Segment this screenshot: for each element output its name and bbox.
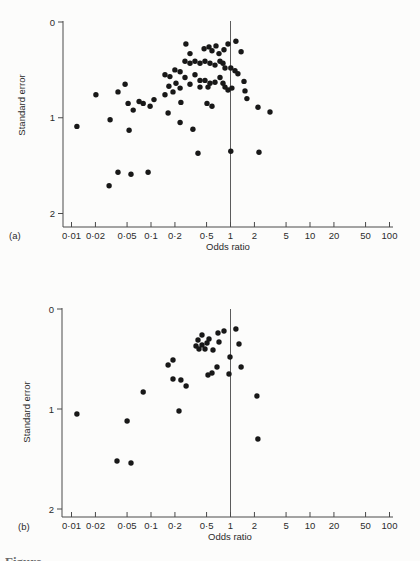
data-point	[106, 183, 111, 188]
x-tick-label: 0·01	[62, 230, 81, 241]
data-point	[206, 336, 211, 341]
x-axis-title: Odds ratio	[208, 531, 252, 542]
data-point	[205, 372, 210, 377]
data-point	[166, 84, 171, 89]
data-point	[162, 72, 167, 77]
data-point	[131, 107, 136, 112]
data-point	[212, 80, 217, 85]
data-point	[151, 97, 156, 102]
data-point	[242, 88, 247, 93]
data-point	[177, 85, 182, 90]
data-point	[225, 41, 230, 46]
data-point	[177, 120, 182, 125]
figure-caption-clipped: Figure	[5, 551, 415, 561]
data-point	[107, 117, 112, 122]
data-point	[197, 78, 202, 83]
data-point	[204, 101, 209, 106]
y-axis-title: Standard error	[16, 74, 27, 135]
data-point	[207, 61, 212, 66]
data-point	[228, 149, 233, 154]
x-tick-label: 10	[305, 520, 316, 531]
data-point	[222, 65, 227, 70]
y-tick-label: 0	[49, 304, 54, 315]
data-point	[196, 346, 201, 351]
data-point	[178, 100, 183, 105]
x-tick-label: 0·1	[144, 230, 158, 241]
x-tick-label: 100	[382, 230, 398, 241]
data-point	[197, 61, 202, 66]
data-point	[183, 41, 188, 46]
data-point	[182, 59, 187, 64]
panel-label-b: (b)	[18, 521, 30, 532]
data-points	[74, 326, 260, 465]
x-tick-label: 2	[252, 230, 257, 241]
data-point	[74, 124, 79, 129]
data-point	[238, 364, 243, 369]
data-point	[187, 82, 192, 87]
data-point	[170, 357, 175, 362]
data-point	[178, 377, 183, 382]
data-point	[202, 346, 207, 351]
data-point	[209, 48, 214, 53]
y-tick-label: 0	[50, 17, 55, 28]
x-tick-label: 5	[283, 230, 288, 241]
data-points	[74, 39, 272, 189]
x-tick-label: 100	[382, 520, 398, 531]
y-ticks: 012	[50, 17, 63, 220]
data-point	[226, 371, 231, 376]
data-point	[214, 364, 219, 369]
data-point	[221, 328, 226, 333]
x-tick-label: 0·05	[118, 520, 137, 531]
scanned-figure-page: 0·010·020·050·10·20·5125102050100 012 St…	[0, 0, 420, 561]
data-point	[176, 408, 181, 413]
x-tick-label: 20	[329, 230, 340, 241]
data-point	[236, 341, 241, 346]
data-point	[182, 75, 187, 80]
data-point	[125, 101, 130, 106]
data-point	[165, 110, 170, 115]
x-tick-label: 50	[360, 520, 371, 531]
data-point	[255, 105, 260, 110]
x-ticks: 0·010·020·050·10·20·5125102050100	[62, 512, 397, 531]
data-point	[183, 383, 188, 388]
x-ticks: 0·010·020·050·10·20·5125102050100	[62, 222, 397, 241]
data-point	[177, 69, 182, 74]
data-point	[126, 128, 131, 133]
x-tick-label: 0·02	[86, 520, 105, 531]
data-point	[202, 78, 207, 83]
x-tick-label: 0·02	[86, 230, 105, 241]
data-point	[199, 332, 204, 337]
data-point	[215, 330, 220, 335]
data-point	[195, 337, 200, 342]
data-point	[192, 59, 197, 64]
x-tick-label: 10	[305, 230, 316, 241]
data-point	[217, 75, 222, 80]
x-tick-label: 0·01	[62, 520, 81, 531]
data-point	[213, 43, 218, 48]
data-point	[241, 79, 246, 84]
data-point	[201, 46, 206, 51]
x-tick-label: 0·5	[200, 520, 214, 531]
data-point	[195, 151, 200, 156]
data-point	[145, 170, 150, 175]
data-point	[235, 71, 240, 76]
data-point	[74, 411, 79, 416]
data-point	[114, 458, 119, 463]
data-point	[227, 354, 232, 359]
x-tick-label: 0·1	[144, 520, 158, 531]
y-tick-label: 1	[49, 404, 54, 415]
y-axis-title: Standard error	[21, 381, 32, 442]
data-point	[141, 101, 146, 106]
data-point	[115, 89, 120, 94]
data-point	[244, 96, 249, 101]
x-tick-label: 50	[360, 230, 371, 241]
funnel-plot-panel-b: 0·010·020·050·10·20·5125102050100 012 St…	[0, 280, 420, 561]
x-tick-label: 5	[283, 520, 288, 531]
x-tick-label: 0·05	[118, 230, 137, 241]
data-point	[172, 67, 177, 72]
data-point	[141, 389, 146, 394]
y-tick-label: 1	[50, 112, 55, 123]
y-tick-label: 2	[50, 208, 55, 219]
data-point	[147, 104, 152, 109]
data-point	[229, 85, 234, 90]
